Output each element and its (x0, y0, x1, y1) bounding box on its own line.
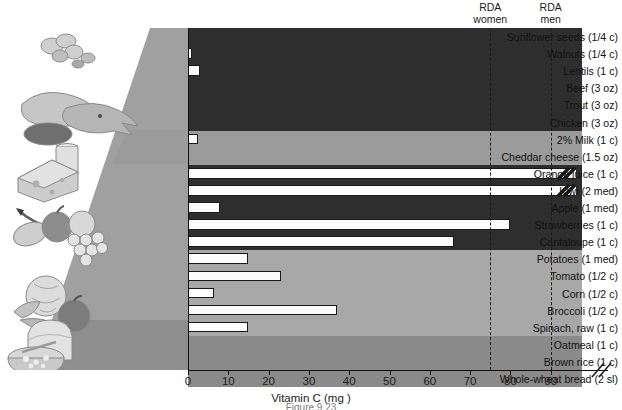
rda-women-label-line2: women (473, 13, 507, 25)
category-label: Chicken (3 oz) (438, 117, 622, 129)
category-label: Cantaloupe (1 c) (438, 236, 622, 248)
x-tick-label: 40 (329, 375, 369, 387)
bar-spinach (188, 322, 248, 333)
rda-men-label-line2: men (540, 13, 560, 25)
category-label: Potatoes (1 med) (438, 253, 622, 265)
rda-men-label-line1: RDA (540, 1, 562, 13)
cheese-milk-icon (18, 144, 78, 203)
category-label: Walnuts (1/4 c) (438, 48, 622, 60)
food-illustrations-panel (0, 28, 190, 370)
rda-men-label: RDAmen (516, 2, 586, 25)
x-tick-label: 50 (370, 375, 410, 387)
bar-walnuts (188, 48, 192, 59)
bar-lentils (188, 65, 200, 76)
category-label: Apple (1 med) (438, 202, 622, 214)
bar-broccoli (188, 305, 337, 316)
bread-oatmeal-icon (8, 320, 72, 370)
figure-vitamin-c-chart: Sunflower seeds (1/4 c)Walnuts (1/4 c)Le… (0, 0, 622, 410)
category-label: Cheddar cheese (1.5 oz) (438, 151, 622, 163)
x-tick-label: 60 (410, 375, 450, 387)
bar-corn (188, 288, 214, 299)
category-label: Sunflower seeds (1/4 c) (438, 31, 622, 43)
category-label: Oatmeal (1 c) (438, 339, 622, 351)
category-label: Kiwi (2 med) (438, 185, 622, 197)
x-tick-label: 90 (531, 375, 571, 387)
category-label: Beef (3 oz) (438, 82, 622, 94)
category-label: Corn (1/2 c) (438, 288, 622, 300)
category-label: Broccoli (1/2 c) (438, 305, 622, 317)
x-axis-line (188, 370, 608, 371)
bar-potatoes (188, 253, 248, 264)
rda-women-line (490, 28, 491, 370)
category-label: Orange juice (1 c) (438, 168, 622, 180)
category-label: Tomato (1/2 c) (438, 270, 622, 282)
bar-apple (188, 202, 220, 213)
category-label: 2% Milk (1 c) (438, 134, 622, 146)
figure-caption: Figure 9.23 (0, 402, 622, 410)
x-tick-label: 20 (249, 375, 289, 387)
category-label: Trout (3 oz) (438, 99, 622, 111)
x-tick-label: 0 (168, 375, 208, 387)
bar-cantaloupe (188, 236, 454, 247)
category-label: Strawberries (1 c) (438, 219, 622, 231)
x-tick-label: 10 (208, 375, 248, 387)
nuts-icon (41, 34, 95, 68)
category-label: Lentils (1 c) (438, 65, 622, 77)
bar- (188, 134, 198, 145)
category-label: Spinach, raw (1 c) (438, 322, 622, 334)
x-tick-label: 30 (289, 375, 329, 387)
x-tick-label: 80 (490, 375, 530, 387)
axis-break-icon (586, 362, 620, 380)
x-tick-label: 70 (450, 375, 490, 387)
rda-women-label-line1: RDA (479, 1, 501, 13)
rda-men-line (551, 28, 552, 370)
bar-tomato (188, 271, 281, 282)
plot-area (188, 28, 582, 370)
